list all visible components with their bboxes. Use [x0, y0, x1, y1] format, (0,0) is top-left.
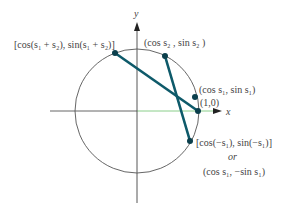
x-axis-label: x: [225, 106, 231, 117]
label-point-neg-s1: [cos(−s₁), sin(−s₁)]: [196, 137, 272, 149]
y-axis-label: y: [133, 8, 139, 19]
label-point-s1: (cos s₁, sin s₁): [199, 84, 255, 96]
label-point-neg-s1-alt: (cos s₁, −sin s₁): [203, 166, 265, 178]
point-sum: [112, 50, 118, 56]
point-neg-s1: [187, 138, 193, 144]
label-point-sum: [cos(s₁ + s₂), sin(s₁ + s₂)]: [14, 39, 115, 51]
label-or: or: [228, 151, 237, 162]
unit-circle-diagram: x y [cos(s₁ + s₂), sin(s₁ + s₂)] (cos s₂…: [0, 0, 288, 210]
x-axis-arrow-icon: [213, 108, 222, 114]
label-point-s2: (cos s₂ , sin s₂ ): [144, 37, 205, 49]
point-one-zero: [195, 108, 201, 114]
chord-s2-to-neg-s1: [165, 56, 190, 141]
chord-sum-to-one: [115, 53, 198, 111]
point-s2: [162, 53, 168, 59]
y-axis-arrow-icon: [134, 22, 140, 31]
point-s1: [192, 94, 198, 100]
label-one-zero: (1,0): [200, 97, 219, 109]
